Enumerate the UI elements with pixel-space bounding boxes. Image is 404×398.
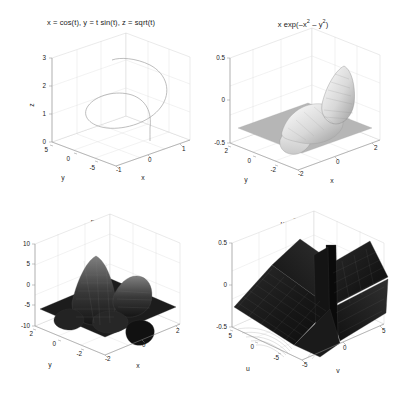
subplot-2-xtick-2: 2	[374, 144, 378, 151]
subplot-4-ytick-1: 0	[250, 343, 254, 350]
subplot-4-ytick-2: 5	[228, 332, 232, 339]
subplot-2-ytick-2: 2	[224, 147, 228, 154]
figure-canvas: x = cos(t), y = t sin(t), z = sqrt(t)	[0, 0, 404, 398]
subplot-2-xtick-0: -2	[298, 170, 304, 177]
subplot-3-ztick-2: 0	[26, 281, 30, 288]
subplot-2-ytick-1: 0	[247, 157, 251, 164]
subplot-2-ztick-0: -0.5	[214, 139, 225, 146]
subplot-4-rational-surface: u (v2)/(u2+v4)	[202, 199, 404, 398]
subplot-1-ytick-1: 0	[66, 155, 70, 162]
subplot-1-ytick-0: -5	[89, 164, 95, 171]
subplot-1-xtick-2: 1	[182, 145, 186, 152]
subplot-4-axes: -0.5 0 0.5 5 0 -5 u -5 0	[202, 199, 404, 398]
subplot-4-ztick-0: -0.5	[216, 323, 227, 330]
subplot-4-xaxis-label: v	[336, 367, 340, 374]
subplot-1-parametric-spiral: x = cos(t), y = t sin(t), z = sqrt(t)	[0, 0, 202, 199]
subplot-2-ztick-2: 0.5	[216, 54, 225, 61]
subplot-3-xtick-0: -2	[105, 355, 111, 362]
subplot-1-ztick-2: 2	[42, 82, 46, 89]
subplot-4-ztick-2: 0.5	[218, 239, 227, 246]
subplot-3-axes: -10 -5 0 5 10 2 0 -2 y -	[0, 199, 202, 398]
subplot-2-xaxis-label: x	[330, 177, 334, 184]
subplot-1-yaxis-label: y	[61, 174, 65, 182]
subplot-1-ztick-1: 1	[42, 110, 46, 117]
subplot-2-xtick-1: 0	[336, 158, 340, 165]
subplot-3-ztick-3: 5	[26, 260, 30, 267]
subplot-3-xtick-2: 2	[176, 327, 180, 334]
subplot-4-xtick-1: 0	[343, 344, 347, 351]
subplot-1-xtick-1: 0	[148, 156, 152, 163]
subplot-4-xtick-0: -5	[302, 361, 308, 368]
subplot-1-ztick-3: 3	[42, 54, 46, 61]
subplot-1-zaxis-label: z	[28, 103, 35, 107]
subplot-2-axes: -0.5 0 0.5 2 0 -2 y -2 0	[202, 0, 404, 199]
subplot-3-xtick-1: 0	[142, 341, 146, 348]
subplot-1-ytick-2: 5	[44, 146, 48, 153]
subplot-3-yaxis-label: y	[48, 361, 52, 369]
subplot-3-ztick-4: 10	[23, 240, 31, 247]
subplot-3-ytick-2: 2	[29, 330, 33, 337]
subplot-1-xaxis-label: x	[141, 174, 145, 181]
subplot-4-ztick-1: 0	[223, 281, 227, 288]
subplot-2-ytick-0: -2	[270, 166, 276, 173]
subplot-3-xaxis-label: x	[136, 362, 140, 369]
subplot-4-yaxis-label: u	[246, 365, 250, 372]
subplot-4-xtick-2: 5	[382, 327, 386, 334]
subplot-3-ytick-0: -2	[76, 350, 82, 357]
subplot-3-peaks-surface: peaks	[0, 199, 202, 398]
subplot-3-ytick-1: 0	[52, 340, 56, 347]
subplot-1-axes: 0 1 2 3 z 5 0 -5 y	[0, 0, 202, 199]
subplot-2-ztick-1: 0	[221, 96, 225, 103]
subplot-1-ztick-0: 0	[42, 138, 46, 145]
subplot-2-yaxis-label: y	[244, 176, 248, 184]
subplot-4-ytick-0: -5	[273, 354, 279, 361]
subplot-3-ztick-0: -10	[21, 322, 31, 329]
subplot-1-xtick-0: -1	[116, 166, 122, 173]
subplot-3-ztick-1: -5	[24, 301, 30, 308]
subplot-2-gaussian-surface: x exp(–x2 – y2)	[202, 0, 404, 199]
